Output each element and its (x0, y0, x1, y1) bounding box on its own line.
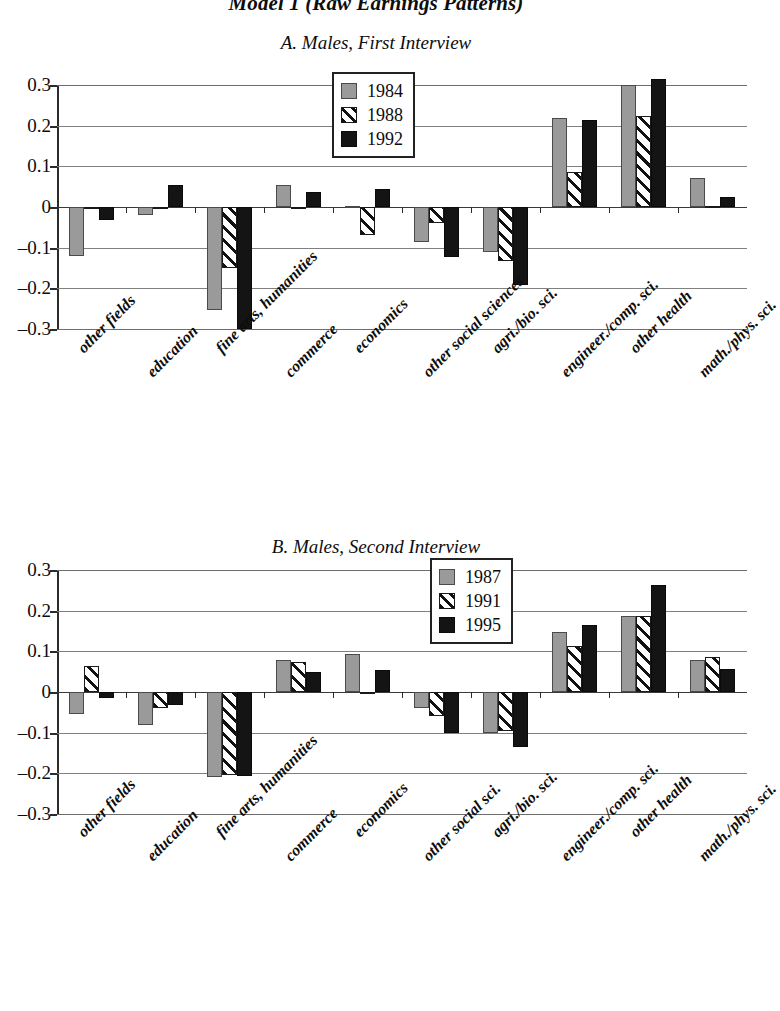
y-axis-tick-mark (50, 692, 57, 694)
x-axis-tick-mark (195, 207, 196, 213)
bar (582, 120, 597, 207)
panel-b-title: B. Males, Second Interview (0, 536, 752, 558)
y-axis-tick-label: 0.3 (27, 559, 51, 581)
y-axis-tick-label: –0.3 (18, 318, 51, 340)
bar (705, 206, 720, 208)
bar (375, 670, 390, 692)
x-axis-tick-mark (126, 207, 127, 213)
y-axis-tick-mark (50, 207, 57, 209)
gridline (57, 248, 747, 249)
legend-label: 1984 (367, 81, 403, 102)
panel-b-category-labels: other fieldseducationfine arts, humaniti… (0, 822, 752, 1011)
legend-item: 1987 (439, 565, 501, 589)
panel-a-legend: 198419881992 (332, 72, 415, 158)
bar (720, 197, 735, 207)
x-axis-tick-mark (540, 692, 541, 698)
bar (690, 178, 705, 207)
bar (651, 79, 666, 207)
x-axis-tick-mark (126, 692, 127, 698)
y-axis-tick-label: 0.1 (27, 640, 51, 662)
legend-swatch-icon (341, 131, 357, 147)
gridline (57, 570, 747, 571)
x-axis-tick-mark (471, 207, 472, 213)
x-axis-tick-mark (333, 207, 334, 213)
bar (360, 207, 375, 235)
bar (153, 692, 168, 708)
bar (291, 662, 306, 692)
legend-swatch-icon (439, 617, 455, 633)
bar (636, 116, 651, 207)
x-axis-tick-mark (609, 692, 610, 698)
bar (444, 207, 459, 257)
bar (567, 646, 582, 692)
bar (552, 632, 567, 692)
bar (207, 207, 222, 310)
x-axis-tick-mark (678, 207, 679, 213)
y-axis-tick-label: –0.1 (18, 722, 51, 744)
bar (345, 654, 360, 692)
x-axis-tick-mark (264, 692, 265, 698)
bar (498, 207, 513, 261)
bar (168, 692, 183, 705)
x-axis-tick-mark (402, 692, 403, 698)
bar (498, 692, 513, 731)
bar (306, 672, 321, 692)
y-axis-tick-mark (50, 126, 57, 128)
legend-swatch-icon (439, 569, 455, 585)
bar (84, 207, 99, 209)
y-axis-tick-mark (50, 733, 57, 735)
y-axis-tick-label: –0.2 (18, 277, 51, 299)
legend-label: 1995 (465, 615, 501, 636)
bar (360, 692, 375, 694)
x-axis-tick-mark (540, 207, 541, 213)
y-axis-tick-mark (50, 166, 57, 168)
bar (483, 692, 498, 733)
y-axis-tick-mark (50, 570, 57, 572)
bar (84, 666, 99, 692)
y-axis-tick-label: –0.1 (18, 237, 51, 259)
bar (345, 206, 360, 208)
legend-swatch-icon (439, 593, 455, 609)
bar (99, 207, 114, 220)
x-axis-tick-mark (471, 692, 472, 698)
x-axis-category-label: education (143, 322, 202, 381)
legend-item: 1991 (439, 589, 501, 613)
panel-a: A. Males, First Interview 0.30.20.10–0.1… (0, 0, 752, 500)
bar (582, 625, 597, 692)
y-axis-tick-label: 0.3 (27, 74, 51, 96)
y-axis-tick-label: –0.2 (18, 762, 51, 784)
bar (99, 692, 114, 698)
bar (429, 207, 444, 223)
y-axis-tick-label: 0.2 (27, 600, 51, 622)
bar (207, 692, 222, 777)
bar (513, 692, 528, 747)
x-axis-tick-mark (264, 207, 265, 213)
legend-label: 1988 (367, 105, 403, 126)
legend-label: 1987 (465, 567, 501, 588)
bar (69, 207, 84, 256)
legend-swatch-icon (341, 83, 357, 99)
y-axis-tick-mark (50, 329, 57, 331)
legend-item: 1984 (341, 79, 403, 103)
bar (636, 616, 651, 692)
panel-b: B. Males, Second Interview 0.30.20.10–0.… (0, 500, 752, 1011)
x-axis-tick-mark (402, 207, 403, 213)
bar (621, 616, 636, 692)
bar (168, 185, 183, 207)
legend-swatch-icon (341, 107, 357, 123)
legend-label: 1992 (367, 129, 403, 150)
bar (414, 207, 429, 242)
bar (429, 692, 444, 716)
x-axis-tick-mark (57, 207, 58, 213)
legend-item: 1995 (439, 613, 501, 637)
bar (651, 585, 666, 692)
y-axis-tick-label: 0.2 (27, 115, 51, 137)
bar (138, 207, 153, 215)
bar (306, 192, 321, 207)
bar (483, 207, 498, 252)
legend-item: 1992 (341, 127, 403, 151)
y-axis-tick-mark (50, 611, 57, 613)
bar (237, 692, 252, 776)
y-axis-tick-mark (50, 651, 57, 653)
bar (153, 207, 168, 209)
